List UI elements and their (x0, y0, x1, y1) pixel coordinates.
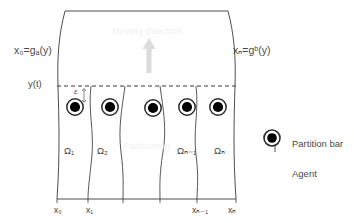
epsilon-arrow-icon (82, 89, 86, 103)
right-boundary-curve (228, 11, 236, 199)
subdomain-label-omega-2: Ω₂ (97, 146, 108, 156)
moving-direction-arrow-icon (143, 38, 156, 73)
epsilon-label: ε (74, 88, 78, 96)
agent-marker-4 (179, 99, 195, 115)
bottom-ticks (57, 199, 236, 203)
interface-label: y(t) (28, 79, 42, 89)
x-tick-label-xn: xₙ (228, 206, 236, 215)
left-boundary-label: x₀=gₐ(y) (14, 45, 52, 56)
partition-diagram: x₀=gₐ(y) xₙ=gᵇ(y) y(t) ε Moving directio… (0, 0, 354, 223)
agent-marker-5 (210, 99, 226, 115)
legend-item-agent: Agent (262, 158, 352, 188)
legend-label-agent: Agent (288, 168, 317, 179)
legend: Partition bar Agent (262, 128, 352, 188)
legend-label-partition-bar: Partition bar (288, 138, 343, 149)
left-boundary-curve (57, 11, 65, 199)
subdomain-label-omega-n: Ωₙ (214, 146, 225, 156)
subdomain-label-omega-1: Ω₁ (64, 146, 74, 156)
lower-watermark-label: Partitioning (124, 142, 170, 151)
agent-marker-2 (102, 99, 118, 115)
moving-direction-label: Moving direction (112, 27, 182, 36)
x-tick-label-x0: x₀ (54, 206, 62, 215)
partition-bar-4 (195, 86, 198, 199)
right-boundary-label: xₙ=gᵇ(y) (233, 45, 270, 56)
x-tick-label-x1: x₁ (86, 206, 93, 215)
partition-bar-1 (88, 86, 92, 199)
agent-marker-1 (67, 99, 83, 115)
x-tick-label-xn-1: xₙ₋₁ (192, 206, 208, 215)
subdomain-label-omega-n-1: Ωₙ₋₁ (177, 146, 196, 156)
agent-marker-3 (145, 100, 161, 116)
